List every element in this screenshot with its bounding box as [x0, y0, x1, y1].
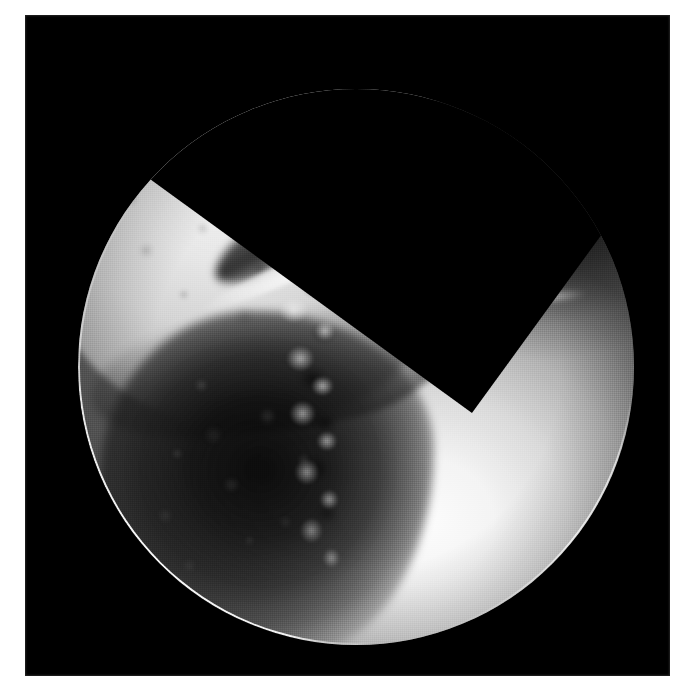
page-root: [0, 0, 693, 690]
film-grain-texture: [78, 89, 634, 645]
photographic-plate: [25, 15, 670, 676]
arthroscopic-field-of-view: [78, 89, 634, 645]
